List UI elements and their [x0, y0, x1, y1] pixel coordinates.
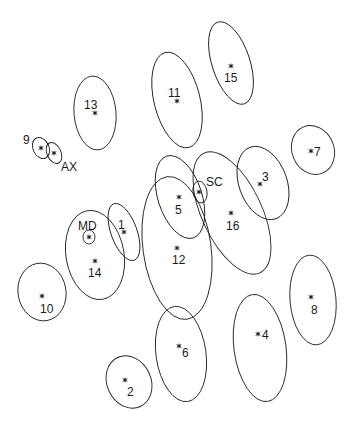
- cluster-label: AX: [61, 160, 77, 174]
- cluster-label: 2: [127, 385, 134, 399]
- cluster-ellipse-8: [286, 253, 340, 347]
- cluster-ellipse-5: [146, 149, 214, 244]
- cluster-label: 1: [118, 218, 125, 232]
- cluster-label: 11: [168, 86, 181, 100]
- cluster-label: 16: [226, 219, 240, 233]
- cluster-label: 3: [262, 170, 269, 184]
- cluster-label: 4: [262, 328, 269, 342]
- cluster-ellipse-2: [98, 348, 161, 416]
- cluster-ellipse-16: [177, 141, 287, 286]
- asterisk-marker-icon: [52, 151, 57, 156]
- cluster-label: 14: [88, 266, 102, 280]
- cluster-label: 6: [182, 346, 189, 360]
- cluster-label: 9: [23, 133, 30, 147]
- cluster-ellipse-15: [200, 16, 263, 110]
- asterisk-marker-icon: [123, 378, 128, 383]
- asterisk-marker-icon: [175, 246, 180, 251]
- cluster-label: 13: [84, 98, 98, 112]
- cluster-label: 10: [40, 302, 54, 316]
- asterisk-marker-icon: [309, 295, 314, 300]
- asterisk-marker-icon: [93, 259, 98, 264]
- cluster-label: MD: [78, 219, 97, 233]
- asterisk-marker-icon: [39, 146, 44, 151]
- asterisk-marker-icon: [309, 149, 314, 154]
- cluster-label: 7: [314, 145, 321, 159]
- cluster-label: 5: [175, 203, 182, 217]
- asterisk-marker-icon: [40, 294, 45, 299]
- asterisk-marker-icon: [87, 235, 92, 240]
- label-layer: 1311159AX75SC31612114MD106482: [23, 71, 321, 399]
- ellipse-cluster-diagram: 1311159AX75SC31612114MD106482: [0, 0, 352, 425]
- asterisk-marker-icon: [177, 344, 182, 349]
- cluster-label: 12: [172, 253, 186, 267]
- cluster-label: 15: [224, 71, 238, 85]
- cluster-label: 8: [311, 303, 318, 317]
- cluster-ellipse-4: [227, 291, 294, 405]
- asterisk-marker-icon: [229, 211, 234, 216]
- cluster-label: SC: [206, 175, 223, 189]
- asterisk-marker-icon: [256, 332, 261, 337]
- cluster-ellipse-6: [150, 303, 213, 405]
- asterisk-marker-icon: [177, 195, 182, 200]
- asterisk-marker-icon: [229, 64, 234, 69]
